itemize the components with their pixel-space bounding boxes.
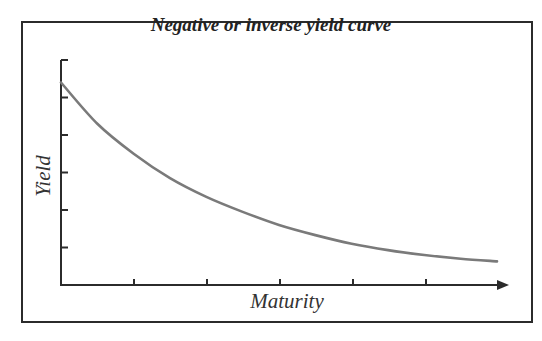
x-axis-arrow-icon: [497, 280, 509, 290]
yield-curve-line: [61, 83, 497, 262]
x-axis-label: Maturity: [247, 289, 327, 314]
y-axis-label: Yield: [31, 146, 56, 206]
